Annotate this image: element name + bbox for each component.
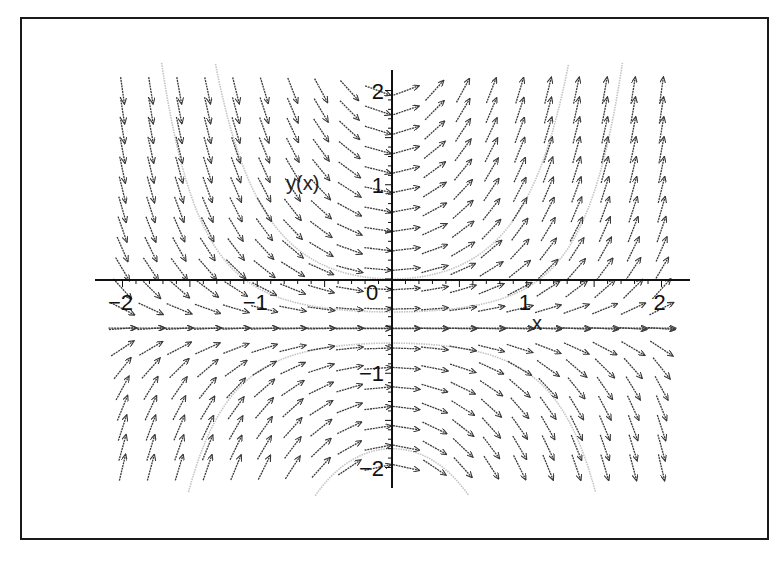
field-arrow: [480, 381, 502, 396]
field-arrow: [422, 266, 448, 273]
field-arrow: [450, 285, 476, 293]
field-arrow: [512, 219, 528, 241]
field-arrow: [451, 264, 476, 275]
field-arrow: [573, 137, 580, 163]
field-arrow: [393, 227, 420, 231]
field-arrow: [393, 367, 420, 369]
field-arrow: [256, 219, 272, 241]
field-arrow: [511, 398, 529, 418]
field-arrow: [484, 456, 499, 479]
field-arrow: [629, 197, 637, 223]
field-arrow: [541, 416, 554, 439]
field-arrow: [336, 347, 363, 350]
field-arrow: [423, 182, 446, 197]
field-arrow: [365, 207, 392, 212]
field-arrow: [228, 239, 244, 261]
field-arrow: [393, 308, 420, 309]
field-arrow: [170, 359, 189, 378]
field-arrow: [602, 137, 608, 163]
field-arrow: [539, 378, 558, 398]
field-arrow: [118, 415, 126, 441]
field-arrow: [197, 281, 219, 297]
field-arrow: [479, 363, 504, 374]
field-arrow: [201, 396, 215, 419]
field-arrow: [624, 279, 643, 298]
field-arrow: [630, 177, 637, 203]
field-arrow: [175, 177, 183, 203]
field-arrow: [287, 138, 299, 162]
field-arrow: [650, 341, 673, 356]
field-arrow: [541, 218, 555, 241]
field-arrow: [515, 118, 524, 143]
field-arrow: [393, 187, 419, 193]
field-arrow: [309, 264, 334, 275]
field-arrow: [393, 426, 420, 430]
field-arrow: [572, 177, 581, 202]
field-arrow: [336, 266, 362, 273]
field-arrow: [258, 178, 271, 202]
field-arrow: [452, 401, 475, 416]
field-arrow: [310, 401, 333, 416]
field-arrow: [167, 342, 191, 355]
field-arrow: [421, 347, 448, 350]
field-arrow: [337, 245, 362, 254]
field-arrow: [365, 146, 391, 153]
direction-field-plot: −2−101221−1−2 y(x) x: [0, 0, 775, 561]
field-arrow: [364, 348, 391, 349]
field-arrow: [339, 141, 360, 158]
field-arrow: [545, 77, 552, 103]
field-arrow: [424, 162, 446, 178]
field-arrow: [653, 358, 670, 379]
field-arrow: [197, 360, 218, 378]
field-arrow: [622, 342, 645, 356]
field-arrow: [426, 81, 444, 101]
field-arrow: [511, 239, 529, 259]
field-arrow: [117, 396, 127, 421]
field-arrow: [538, 260, 557, 279]
field-arrow: [260, 98, 269, 124]
field-arrow: [147, 177, 154, 203]
field-arrow: [510, 379, 530, 397]
field-arrow: [535, 344, 560, 354]
field-arrow: [146, 415, 155, 440]
field-arrow: [452, 221, 474, 237]
field-arrow: [147, 435, 155, 461]
field-arrow: [537, 360, 559, 376]
field-arrow: [365, 106, 391, 115]
x-tick-label: −2: [108, 290, 133, 315]
field-arrow: [628, 415, 637, 440]
field-arrow: [630, 157, 636, 183]
x-tick-label: 2: [653, 290, 665, 315]
field-arrow: [139, 342, 162, 356]
field-arrow: [312, 458, 330, 478]
field-arrow: [630, 455, 637, 481]
field-arrow: [485, 138, 497, 162]
field-arrow: [338, 203, 362, 216]
field-arrow: [203, 435, 213, 460]
field-arrow: [483, 199, 500, 220]
field-arrow: [364, 308, 391, 309]
field-arrow: [336, 287, 363, 292]
field-arrow: [311, 201, 331, 219]
field-arrow: [624, 358, 642, 378]
field-arrow: [393, 406, 420, 409]
x-tick-label: 1: [519, 290, 531, 315]
field-arrow: [141, 279, 160, 298]
field-arrow: [601, 455, 609, 481]
field-arrow: [569, 396, 583, 419]
field-arrow: [540, 239, 556, 261]
field-arrow: [481, 399, 501, 417]
field-arrow: [314, 119, 329, 142]
field-arrow: [393, 248, 420, 251]
field-arrow: [254, 379, 274, 397]
field-arrow: [314, 99, 328, 122]
field-arrow: [310, 221, 332, 237]
field-arrow: [601, 177, 609, 203]
x-axis-title: x: [532, 312, 542, 334]
y-axis-title: y(x): [286, 172, 319, 194]
field-arrow: [456, 99, 470, 122]
field-arrow: [514, 455, 526, 479]
field-arrow: [260, 78, 268, 104]
field-arrow: [423, 441, 447, 454]
field-arrow: [485, 158, 499, 181]
